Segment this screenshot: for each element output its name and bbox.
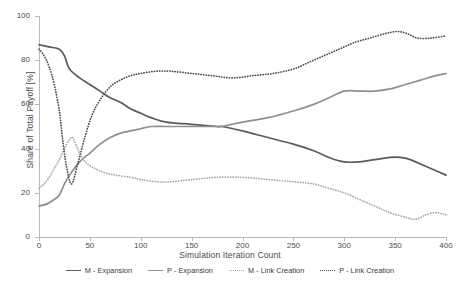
legend-label: P - Expansion bbox=[167, 266, 213, 275]
legend-label: M - Expansion bbox=[85, 266, 132, 275]
series-line bbox=[39, 31, 446, 183]
legend-swatch-icon bbox=[320, 270, 335, 271]
legend-swatch-icon bbox=[66, 270, 81, 271]
series-lines bbox=[0, 0, 460, 289]
legend-label: M - Link Creation bbox=[248, 266, 304, 275]
legend-item[interactable]: M - Expansion bbox=[66, 266, 132, 275]
legend-item[interactable]: M - Link Creation bbox=[229, 266, 304, 275]
series-line bbox=[39, 45, 446, 175]
series-line bbox=[39, 73, 446, 206]
legend-label: P - Link Creation bbox=[339, 266, 394, 275]
chart-legend: M - ExpansionP - ExpansionM - Link Creat… bbox=[0, 266, 460, 275]
chart-container: 020406080100 050100150200250300350400 Sh… bbox=[0, 0, 460, 289]
legend-swatch-icon bbox=[148, 270, 163, 271]
legend-swatch-icon bbox=[229, 270, 244, 271]
legend-item[interactable]: P - Expansion bbox=[148, 266, 213, 275]
legend-item[interactable]: P - Link Creation bbox=[320, 266, 394, 275]
series-line bbox=[39, 137, 446, 219]
